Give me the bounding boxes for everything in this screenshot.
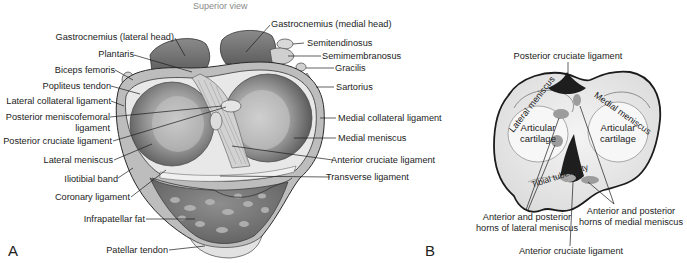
label-gastrocnemius-medial-head: Gastrocnemius (medial head) <box>271 19 392 29</box>
label-b-lateral-horns-line2: horns of lateral meniscus <box>462 223 592 233</box>
label-medial-collateral-ligament: Medial collateral ligament <box>338 113 442 123</box>
label-coronary-ligament: Coronary ligament <box>55 192 130 202</box>
label-sartorius: Sartorius <box>336 82 373 92</box>
panel-letter-b: B <box>425 242 435 259</box>
label-lateral-meniscus: Lateral meniscus <box>44 155 113 165</box>
label-lateral-collateral-ligament: Lateral collateral ligament <box>6 96 111 106</box>
label-gastrocnemius-lateral-head: Gastrocnemius (lateral head) <box>56 32 174 42</box>
label-b-medial-horns-line2: horns of medial meniscus <box>575 217 687 227</box>
label-medial-meniscus: Medial meniscus <box>338 133 406 143</box>
label-gracilis: Gracilis <box>335 63 366 73</box>
label-plantaris: Plantaris <box>98 49 134 59</box>
lateral-horn-posterior <box>553 109 569 119</box>
label-biceps-femoris: Biceps femoris <box>55 65 115 75</box>
label-posterior-cruciate-ligament: Posterior cruciate ligament <box>3 136 112 146</box>
label-popliteus-tendon: Popliteus tendon <box>43 81 111 91</box>
label-semitendinosus: Semitendinosus <box>307 38 372 48</box>
label-b-lateral-horns-line1: Anterior and posterior <box>462 212 592 222</box>
label-infrapatellar-fat: Infrapatellar fat <box>84 214 145 224</box>
label-semimembranosus: Semimembranosus <box>322 51 401 61</box>
label-b-anterior-cruciate-ligament: Anterior cruciate ligament <box>506 246 636 256</box>
label-patellar-tendon: Patellar tendon <box>106 245 168 255</box>
label-b-articular-cartilage-left: Articular cartilage <box>514 122 562 144</box>
label-b-articular-cartilage-right: Articular cartilage <box>594 122 642 144</box>
view-caption: Superior view <box>193 1 248 11</box>
label-posterior-meniscofemoral-line2: ligament <box>75 123 110 133</box>
label-posterior-meniscofemoral-line1: Posterior meniscofemoral <box>6 112 110 122</box>
label-b-medial-horns-line1: Anterior and posterior <box>575 206 687 216</box>
label-iliotibial-band: Iliotibial band <box>64 174 118 184</box>
medial-horn-anterior <box>581 176 599 184</box>
panel-letter-a: A <box>8 242 18 259</box>
label-anterior-cruciate-ligament: Anterior cruciate ligament <box>331 155 435 165</box>
medial-horn-posterior <box>573 94 581 106</box>
label-transverse-ligament: Transverse ligament <box>326 172 409 182</box>
label-b-posterior-cruciate-ligament: Posterior cruciate ligament <box>508 51 628 61</box>
